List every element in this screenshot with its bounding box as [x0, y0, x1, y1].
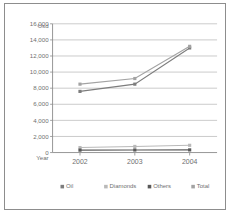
x-tick-label: 2003 [127, 158, 143, 165]
chart-legend: OilDiamondsOthersTotal [60, 183, 209, 189]
legend-label-total: Total [197, 183, 210, 189]
y-axis-title: Usd [38, 22, 49, 29]
data-point-marker [133, 148, 136, 151]
x-tick-label: 2002 [72, 158, 88, 165]
legend-swatch-diamonds [104, 185, 108, 189]
y-tick-label: 10,000 [30, 68, 49, 75]
chart-frame: 02,0004,0006,0008,00010,00012,00014,0001… [4, 3, 226, 210]
legend-label-diamonds: Diamonds [110, 183, 137, 189]
series-group [78, 45, 191, 152]
line-chart: 02,0004,0006,0008,00010,00012,00014,0001… [5, 4, 225, 209]
data-point-marker [188, 45, 191, 48]
data-point-marker [188, 144, 191, 147]
legend-label-oil: Oil [66, 183, 73, 189]
x-axis-title: Year [36, 154, 48, 161]
data-point-marker [188, 148, 191, 151]
y-tick-label: 14,000 [30, 36, 49, 43]
legend-swatch-others [148, 185, 152, 189]
x-axis-ticks-group: 200220032004 [72, 153, 197, 166]
legend-label-others: Others [153, 183, 171, 189]
y-tick-label: 4,000 [33, 117, 49, 124]
y-tick-label: 2,000 [33, 133, 49, 140]
x-tick-label: 2004 [182, 158, 198, 165]
legend-swatch-oil [60, 185, 64, 189]
data-point-marker [133, 77, 136, 80]
legend-swatch-total [191, 185, 195, 189]
data-point-marker [78, 83, 81, 86]
data-point-marker [133, 83, 136, 86]
data-point-marker [78, 90, 81, 93]
y-axis-ticks-group: 02,0004,0006,0008,00010,00012,00014,0001… [30, 20, 53, 156]
data-point-marker [78, 149, 81, 152]
gridlines-group [53, 24, 218, 137]
y-tick-label: 8,000 [33, 84, 49, 91]
data-point-marker [133, 145, 136, 148]
y-tick-label: 12,000 [30, 52, 49, 59]
y-tick-label: 6,000 [33, 100, 49, 107]
